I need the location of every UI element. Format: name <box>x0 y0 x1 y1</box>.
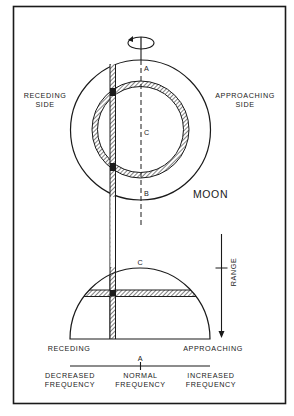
normal-frequency-label-2: FREQUENCY <box>115 380 166 389</box>
point-a-axis-label: A <box>138 354 143 363</box>
intersection-top <box>110 88 116 96</box>
point-c-label: C <box>144 128 150 137</box>
increased-frequency-label: INCREASED <box>187 371 234 380</box>
point-c-dome-label: C <box>138 258 144 267</box>
increased-frequency-label-2: FREQUENCY <box>186 380 237 389</box>
intersection-dome <box>110 290 116 297</box>
range-label: RANGE <box>229 258 238 287</box>
decreased-frequency-label-2: FREQUENCY <box>45 380 96 389</box>
approaching-label: APPROACHING <box>183 344 243 353</box>
point-b-label: B <box>144 189 149 198</box>
receding-label: RECEDING <box>48 344 91 353</box>
point-a-label: A <box>144 64 149 73</box>
moon-label: MOON <box>193 188 228 200</box>
normal-frequency-label: NORMAL <box>123 371 157 380</box>
decreased-frequency-label: DECREASED <box>45 371 95 380</box>
range-ring <box>0 0 294 416</box>
intersection-bottom <box>110 163 116 171</box>
moon-radar-doppler-diagram: RECEDING SIDE APPROACHING SIDE A C B MOO… <box>0 0 294 416</box>
